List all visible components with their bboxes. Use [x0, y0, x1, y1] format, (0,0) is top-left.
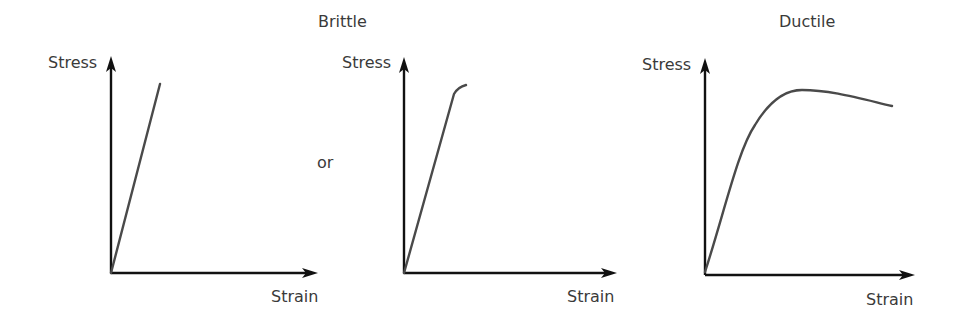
y-axis-label: Stress: [642, 55, 691, 74]
x-axis-label: Strain: [567, 287, 614, 306]
chart-brittle-2: Stress Strain: [342, 53, 617, 306]
x-axis-label: Strain: [271, 287, 318, 306]
or-label: or: [317, 153, 334, 172]
stress-strain-curve: [705, 90, 892, 272]
chart-ductile: Stress Strain: [642, 55, 915, 309]
stress-strain-curve: [111, 84, 160, 273]
stress-strain-diagram: Brittle Ductile or Stress Strain Stress …: [0, 0, 964, 320]
x-axis-label: Strain: [866, 290, 913, 309]
stress-strain-curve: [404, 85, 466, 273]
y-axis-label: Stress: [48, 53, 97, 72]
title-brittle: Brittle: [318, 12, 367, 31]
chart-brittle-1: Stress Strain: [48, 53, 318, 306]
title-ductile: Ductile: [779, 12, 835, 31]
y-axis-label: Stress: [342, 53, 391, 72]
